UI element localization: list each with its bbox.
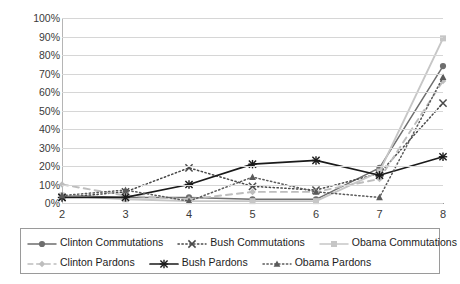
legend-label: Bush Commutations [210,236,305,248]
data-point-marker [376,194,383,200]
gridline [62,111,443,112]
x-axis-tick-label: 5 [233,208,273,220]
y-axis-tick-label: 70% [2,68,60,80]
data-point-marker [439,100,446,107]
data-point-marker [39,241,45,247]
gridline [62,92,443,93]
legend-row: Clinton CommutationsBush CommutationsOba… [27,232,433,252]
gridline [62,37,443,38]
legend-item-obama-pardons[interactable]: Obama Pardons [262,256,371,268]
line-chart: 100%90%80%70%60%50%40%30%20%10%0% Clinto… [0,0,460,284]
legend-item-clinton-pardons[interactable]: Clinton Pardons [27,256,135,268]
x-axis-tick-label: 4 [169,208,209,220]
y-axis-tick-label: 60% [2,86,60,98]
series-line [62,103,443,197]
legend-key-asterisk-icon [149,256,179,268]
legend-row: Clinton PardonsBush PardonsObama Pardons [27,252,433,272]
x-axis-tick-label: 8 [423,208,460,220]
gridline [62,185,443,186]
x-axis-tick-label: 7 [360,208,400,220]
data-point-marker [249,174,256,180]
gridline [62,203,443,204]
legend-item-obama-commutations[interactable]: Obama Commutations [319,236,457,248]
data-point-marker [439,153,447,161]
y-axis-tick-label: 80% [2,49,60,61]
gridline [62,129,443,130]
legend-label: Bush Pardons [182,256,248,268]
legend-key-diamond-icon [27,256,57,268]
series-line [62,77,443,201]
legend-key-x-icon [177,236,207,248]
y-axis-tick-label: 50% [2,105,60,117]
chart-legend: Clinton CommutationsBush CommutationsOba… [20,228,440,274]
gridline [62,74,443,75]
data-point-marker [312,156,320,164]
gridline [62,55,443,56]
gridline [62,18,443,19]
y-axis-tick-label: 20% [2,160,60,172]
plot-area [62,18,443,203]
data-point-marker [248,160,256,168]
gridline [62,166,443,167]
legend-item-bush-pardons[interactable]: Bush Pardons [149,256,248,268]
y-axis-tick-label: 10% [2,179,60,191]
data-point-marker [331,241,337,247]
data-point-marker [440,63,446,69]
legend-key-triangle-icon [262,256,292,268]
legend-item-bush-commutations[interactable]: Bush Commutations [177,236,305,248]
gridline [62,148,443,149]
data-point-marker [440,74,447,80]
legend-label: Clinton Pardons [60,256,135,268]
y-axis-tick-label: 90% [2,31,60,43]
y-axis-tick-label: 100% [2,12,60,24]
x-axis-tick-label: 3 [106,208,146,220]
legend-label: Clinton Commutations [60,236,163,248]
series-line [62,81,443,199]
series-bush-commutations [58,100,446,202]
data-point-marker [39,261,46,268]
legend-label: Obama Commutations [352,236,457,248]
legend-key-square-icon [319,236,349,248]
legend-key-circle-icon [27,236,57,248]
legend-item-clinton-commutations[interactable]: Clinton Commutations [27,236,163,248]
x-axis-tick-label: 2 [42,208,82,220]
legend-label: Obama Pardons [295,256,371,268]
x-axis-tick-label: 6 [296,208,336,220]
data-point-marker [375,171,383,179]
data-point-marker [121,193,129,201]
y-axis-tick-label: 40% [2,123,60,135]
data-point-marker [160,260,168,268]
y-axis-tick-label: 30% [2,142,60,154]
